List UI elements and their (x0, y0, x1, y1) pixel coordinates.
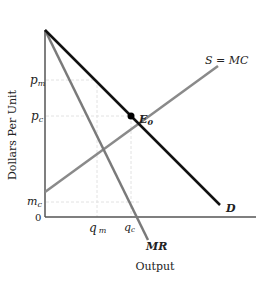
mc-label: mc (27, 195, 42, 209)
pc-label: pc (31, 109, 44, 124)
x-axis-title: Output (135, 260, 175, 273)
marginal-revenue-curve (45, 30, 148, 240)
monopoly-diagram: pm pc mc 0 qm qc S = MC D MR E0 Dollars … (0, 0, 271, 286)
y-axis-title: Dollars Per Unit (6, 89, 19, 179)
equilibrium-point (128, 113, 135, 120)
qm-label: qm (89, 221, 107, 235)
mr-label: MR (145, 240, 167, 253)
qc-label: qc (124, 221, 135, 234)
pm-label: pm (30, 73, 46, 88)
origin-label: 0 (35, 212, 41, 223)
demand-label: D (225, 202, 236, 215)
supply-label: S = MC (205, 54, 249, 67)
